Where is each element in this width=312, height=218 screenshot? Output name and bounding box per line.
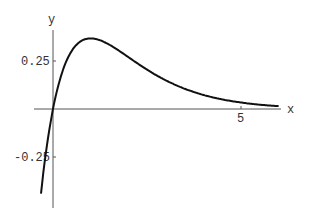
y-tick-label-0.25: 0.25 bbox=[21, 55, 50, 69]
x-axis-label: x bbox=[287, 103, 294, 117]
chart: y x 5 0.25 -0.25 bbox=[0, 0, 312, 218]
x-tick-label-5: 5 bbox=[237, 112, 244, 126]
y-axis-label: y bbox=[48, 13, 55, 27]
